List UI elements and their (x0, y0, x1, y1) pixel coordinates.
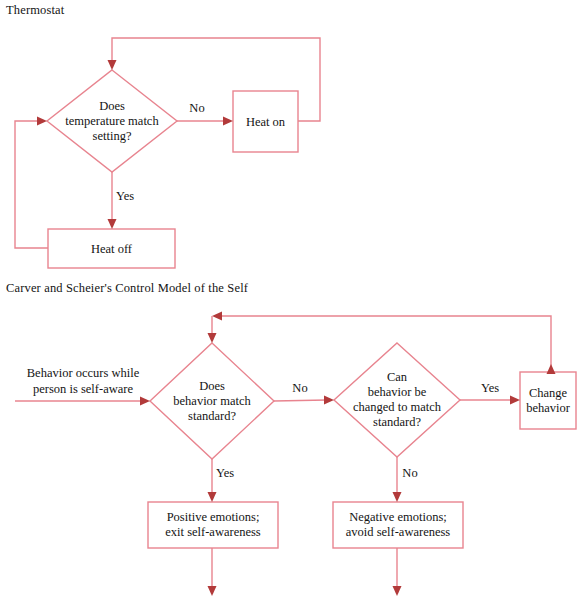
node-heat-on (233, 91, 298, 152)
arrowhead-carver-loop-down (208, 333, 217, 343)
arrowhead-carver-yes-1 (208, 492, 217, 502)
arrowhead-thermostat-no (223, 117, 233, 126)
arrowhead-entry (140, 397, 150, 406)
arrowhead-carver-no-1 (324, 396, 334, 405)
node-heat-off (48, 229, 175, 268)
arrowhead-exit-negative (393, 586, 402, 596)
edge-thermostat-loop-heat-on (112, 38, 320, 121)
arrowhead-carver-yes-2 (510, 396, 520, 405)
node-positive-emotions (148, 502, 278, 548)
node-behavior-change-decision (334, 343, 460, 457)
arrowhead-thermostat-loop-top (108, 60, 117, 70)
flowchart-vector-layer (0, 0, 586, 615)
node-negative-emotions (333, 502, 463, 548)
arrowhead-carver-loop-left (212, 312, 222, 321)
node-behavior-match-decision (150, 343, 274, 459)
arrowhead-thermostat-loop-left (37, 117, 47, 126)
arrowhead-exit-positive (208, 586, 217, 596)
edge-carver-no-1 (274, 400, 327, 401)
arrowhead-thermostat-yes (108, 219, 117, 229)
arrowhead-carver-no-2 (393, 492, 402, 502)
edge-thermostat-loop-heat-off (15, 121, 48, 248)
thermostat-diagram-title: Thermostat (6, 3, 64, 18)
carver-scheier-diagram-title: Carver and Scheier's Control Model of th… (6, 281, 248, 296)
flowchart-canvas: Thermostat Carver and Scheier's Control … (0, 0, 586, 615)
edge-carver-feedback-loop (219, 316, 551, 372)
arrowhead-carver-loop-up (547, 364, 556, 374)
carver-scheier-diagram (15, 312, 576, 597)
node-thermostat-decision (47, 70, 177, 172)
node-change-behavior (520, 372, 576, 429)
thermostat-diagram (15, 38, 320, 268)
